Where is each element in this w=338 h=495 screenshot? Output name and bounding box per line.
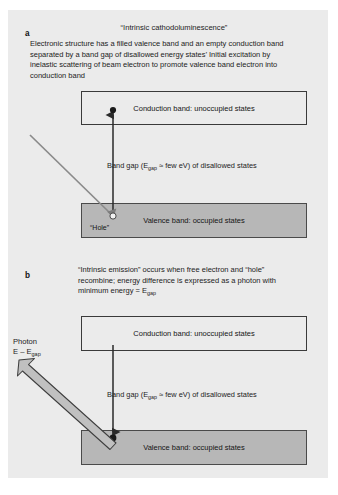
panel-a-electron-dot-icon	[110, 107, 116, 113]
figure-canvas: a “Intrinsic cathodoluminescence” Electr…	[0, 0, 338, 495]
panel-b-photon-arrow-icon	[18, 359, 117, 450]
panel-a-beam-electron-arrow	[30, 135, 111, 214]
panel-a-hole-circle-icon	[110, 213, 116, 219]
diagram-vector-overlay	[0, 0, 338, 495]
